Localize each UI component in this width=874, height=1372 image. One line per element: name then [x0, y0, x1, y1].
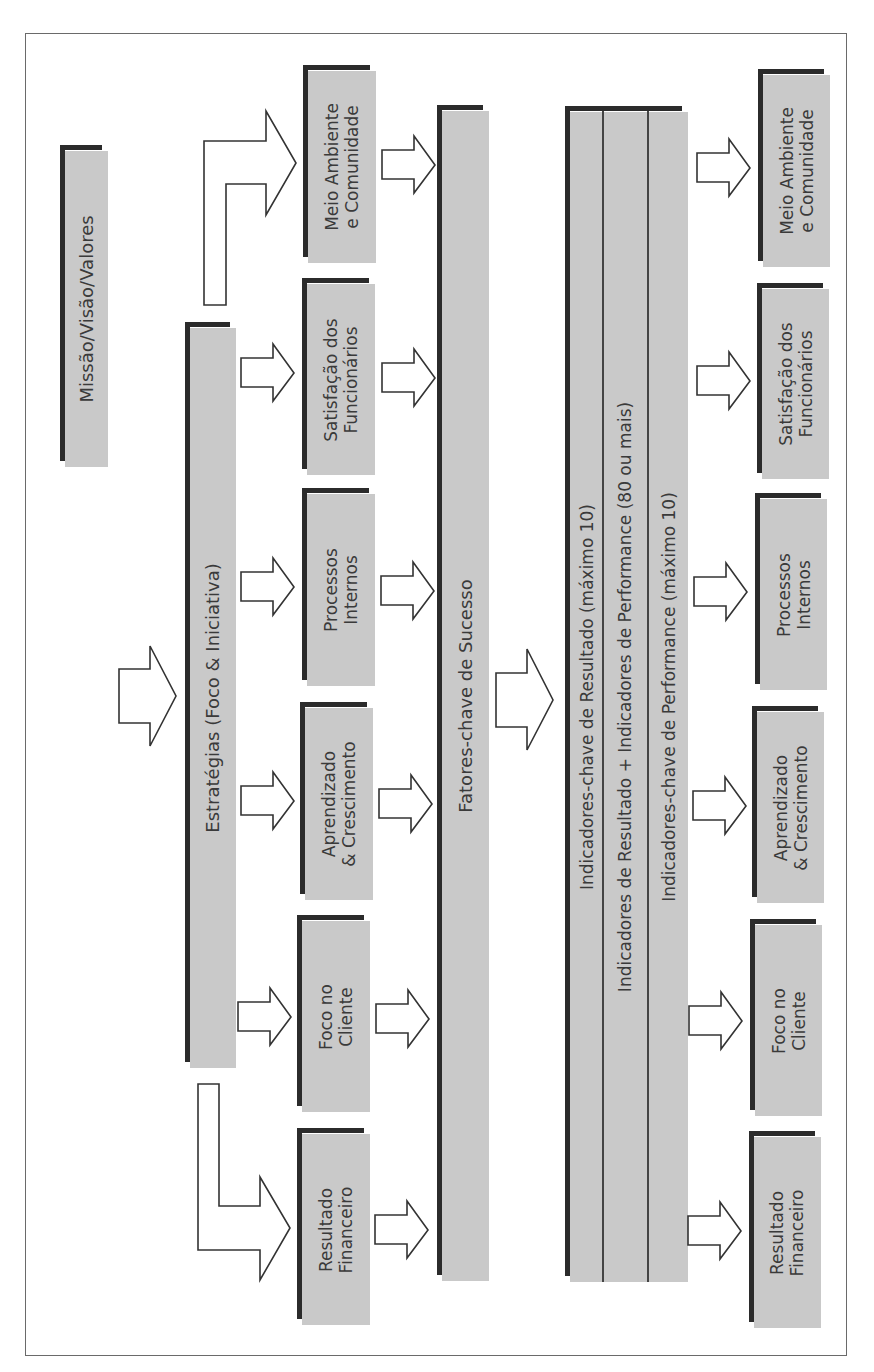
perspective-box-employees: Satisfação dosFuncionários [302, 278, 375, 475]
indicator-row-label: Indicadores-chave de Resultado (máximo 1… [577, 504, 597, 890]
indicator-row-label: Indicadores-chave de Performance (máximo… [659, 492, 679, 902]
perspective-label: Funcionários [341, 318, 361, 441]
arrow-right-icon [240, 343, 296, 403]
perspective-label: Financeiro [788, 1189, 808, 1276]
perspective-box-environment: Meio Ambientee Comunidade [758, 69, 830, 267]
arrow-right-icon [495, 648, 555, 752]
perspective-label: e Comunidade [342, 103, 362, 231]
perspective-label: Funcionários [796, 322, 816, 445]
indicator-row-label: Indicadores de Resultado + Indicadores d… [616, 402, 636, 992]
perspective-box-learning: Aprendizado& Crescimento [752, 706, 824, 903]
perspective-label: Meio Ambiente [322, 103, 342, 231]
perspective-label: Internos [341, 548, 361, 632]
arrow-right-icon [374, 1200, 430, 1260]
perspective-label: Meio Ambiente [777, 107, 797, 235]
perspective-box-processes: ProcessosInternos [755, 493, 827, 690]
perspective-label: Resultado [316, 1186, 336, 1273]
perspective-label: Processos [774, 553, 794, 637]
arrow-right-icon [240, 557, 296, 617]
arrow-right-icon [118, 645, 178, 747]
indicator-row: Indicadores-chave de Resultado (máximo 1… [570, 112, 603, 1282]
perspective-label: Resultado [768, 1189, 788, 1276]
bent-arrow-icon [203, 110, 298, 310]
perspective-box-processes: ProcessosInternos [302, 488, 375, 686]
arrow-right-icon [693, 562, 749, 622]
perspective-box-employees: Satisfação dosFuncionários [757, 283, 829, 479]
arrow-right-icon [696, 138, 752, 198]
perspective-label: Foco no [769, 988, 789, 1054]
perspective-label: Processos [321, 548, 341, 632]
success-factors-label: Fatores-chave de Sucesso [456, 579, 476, 812]
arrow-right-icon [380, 561, 436, 621]
arrow-right-icon [240, 771, 296, 831]
arrow-right-icon [696, 351, 752, 411]
perspective-label: Cliente [336, 984, 356, 1050]
perspective-box-customer: Foco noCliente [297, 915, 370, 1112]
arrow-right-icon [687, 1201, 743, 1261]
arrow-right-icon [378, 774, 434, 834]
perspective-box-environment: Meio Ambientee Comunidade [303, 65, 376, 263]
success-factors-bar: Fatores-chave de Sucesso [437, 105, 489, 1281]
perspective-label: Foco no [316, 984, 336, 1050]
perspective-label: e Comunidade [797, 107, 817, 235]
arrow-right-icon [381, 348, 437, 408]
perspective-box-learning: Aprendizado& Crescimento [300, 702, 373, 900]
strategies-bar: Estratégias (Foco & Iniciativa) [185, 322, 236, 1068]
arrow-right-icon [237, 987, 293, 1047]
arrow-right-icon [381, 135, 437, 195]
indicators-bar: Indicadores-chave de Resultado (máximo 1… [565, 106, 688, 1282]
strategies-label: Estratégias (Foco & Iniciativa) [203, 563, 223, 832]
perspective-label: Aprendizado [771, 745, 791, 870]
mission-label: Missão/Visão/Valores [77, 215, 97, 402]
perspective-label: Satisfação dos [321, 318, 341, 441]
indicator-row: Indicadores-chave de Performance (máximo… [649, 112, 688, 1282]
mission-box: Missão/Visão/Valores [60, 145, 108, 467]
perspective-label: Satisfação dos [776, 322, 796, 445]
perspective-label: Internos [794, 553, 814, 637]
bent-arrow-icon [197, 1083, 292, 1283]
arrow-right-icon [688, 991, 744, 1051]
perspective-label: & Crescimento [339, 741, 359, 866]
perspective-label: Financeiro [336, 1186, 356, 1273]
arrow-right-icon [692, 776, 748, 836]
indicator-row: Indicadores de Resultado + Indicadores d… [604, 112, 647, 1282]
arrow-right-icon [375, 989, 431, 1049]
perspective-box-financial: ResultadoFinanceiro [749, 1131, 821, 1328]
perspective-label: Aprendizado [319, 741, 339, 866]
perspective-label: Cliente [789, 988, 809, 1054]
perspective-box-customer: Foco noCliente [750, 919, 822, 1116]
perspective-box-financial: ResultadoFinanceiro [297, 1128, 370, 1325]
perspective-label: & Crescimento [791, 745, 811, 870]
